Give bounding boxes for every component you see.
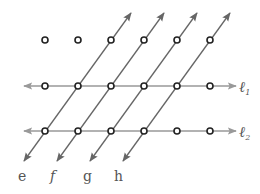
point [207,83,213,89]
point [42,128,48,134]
point [141,37,147,43]
point [42,37,48,43]
points-top-row [42,37,213,43]
point [75,37,81,43]
point [174,83,180,89]
point [141,83,147,89]
point [75,83,81,89]
point [75,128,81,134]
point [108,37,114,43]
label-l1: ℓ1 [239,78,250,97]
parallel-lines-diagram: ℓ1 ℓ2 e f g h [0,0,260,194]
label-l2: ℓ2 [239,123,250,142]
label-e: e [18,168,26,184]
label-h: h [114,168,123,184]
point [141,128,147,134]
point [108,128,114,134]
point [207,37,213,43]
label-f: f [49,168,58,184]
point [174,128,180,134]
point [207,128,213,134]
label-g: g [83,168,92,184]
point [42,83,48,89]
point [108,83,114,89]
point [174,37,180,43]
